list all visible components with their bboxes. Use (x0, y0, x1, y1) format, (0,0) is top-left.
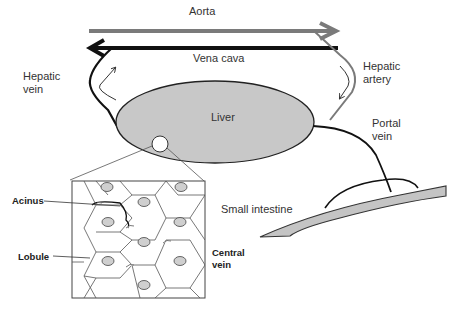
aorta-arrow (89, 23, 336, 39)
hepatic-vein-flow-arrow (99, 68, 116, 100)
lobule-label: Lobule (18, 251, 49, 263)
hepatic-vein-vessel (90, 48, 118, 128)
central-vein-label: Central vein (212, 247, 245, 271)
liver-label: Liver (211, 111, 235, 124)
hepatic-artery-label: Hepatic artery (363, 60, 400, 86)
lobule-detail-box (72, 181, 205, 298)
magnified-region-marker (152, 136, 168, 152)
hepatic-vein-label: Hepatic vein (23, 70, 60, 96)
acinus-label: Acinus (12, 195, 44, 207)
aorta-label: Aorta (189, 5, 215, 18)
hepatic-artery-vessel (314, 31, 355, 120)
vena-cava-label: Vena cava (193, 52, 244, 65)
small-intestine-label: Small intestine (221, 203, 293, 216)
portal-vein-label: Portal vein (372, 117, 401, 143)
hepatic-artery-flow-arrow (340, 66, 349, 98)
